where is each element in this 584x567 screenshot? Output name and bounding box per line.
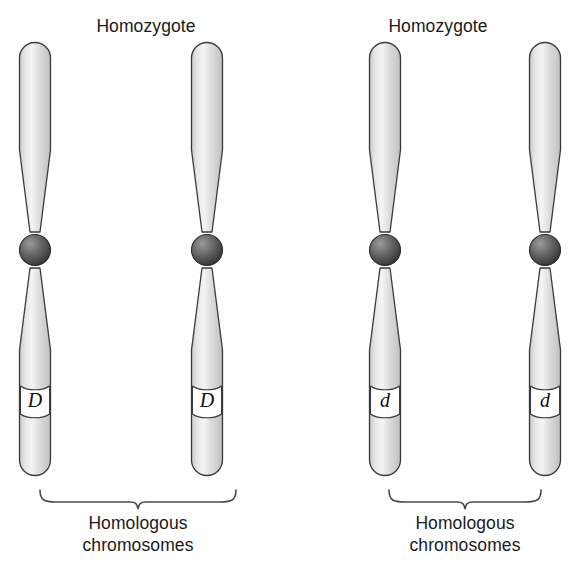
- caption-left-line1: Homologous: [38, 512, 238, 534]
- allele-label-1: D: [27, 389, 43, 411]
- caption-right: Homologous chromosomes: [365, 512, 565, 556]
- diagram-canvas: Homozygote Homozygote: [0, 0, 584, 567]
- chromosome-3: d: [370, 42, 401, 475]
- caption-right-line2: chromosomes: [365, 534, 565, 556]
- chromosome-1: D: [20, 42, 51, 475]
- brace-left: [40, 490, 236, 509]
- allele-label-4: d: [540, 389, 551, 411]
- brace-right: [389, 490, 541, 509]
- allele-label-2: D: [199, 389, 215, 411]
- chromosome-2: D: [192, 42, 223, 475]
- caption-right-line1: Homologous: [365, 512, 565, 534]
- caption-left: Homologous chromosomes: [38, 512, 238, 556]
- chromosome-4: d: [530, 42, 561, 475]
- caption-left-line2: chromosomes: [38, 534, 238, 556]
- chromosome-illustration: D D d d: [0, 0, 584, 567]
- allele-label-3: d: [380, 389, 391, 411]
